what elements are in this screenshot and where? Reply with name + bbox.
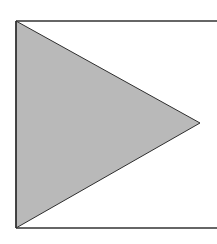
triangle-diagram xyxy=(0,0,217,244)
